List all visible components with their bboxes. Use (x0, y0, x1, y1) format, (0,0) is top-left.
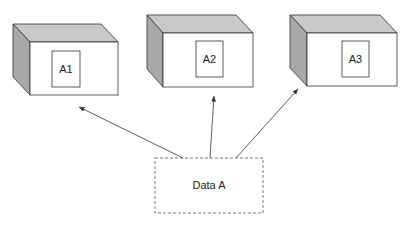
box-label-a3: A3 (342, 53, 369, 65)
box-label-a2: A2 (196, 53, 223, 65)
container-box-a2 (147, 15, 253, 87)
box-label-a1: A1 (52, 63, 80, 75)
diagram-canvas (0, 0, 408, 226)
container-box-a3 (290, 15, 397, 86)
data-source-label: Data A (155, 179, 263, 191)
arrow-to-a2 (210, 96, 214, 158)
arrow-to-a3 (236, 89, 298, 158)
container-box-a1 (13, 24, 118, 95)
arrow-to-a1 (79, 107, 183, 158)
